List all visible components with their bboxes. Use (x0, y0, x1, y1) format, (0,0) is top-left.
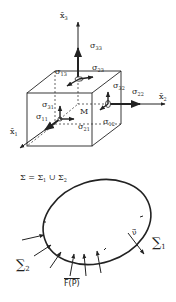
sigma11-label: σ11 (36, 113, 48, 122)
sigma31-label: σ31 (42, 101, 54, 110)
boundary-tick (104, 248, 106, 250)
x1-label: x̄1 (10, 128, 18, 137)
sigma13-arrow (67, 79, 79, 86)
x3-axis (67, 22, 93, 86)
sigma22-label: σ22 (132, 88, 144, 97)
sigma13-label: σ13 (55, 68, 67, 77)
x3-label: x̄3 (60, 12, 68, 21)
boundary-equation: Σ = Σ1 ∪ Σ2 (20, 174, 67, 183)
boundary-tick (140, 216, 143, 217)
point-m-label: M (80, 108, 88, 116)
force-label: F(P) (64, 280, 80, 288)
sigma23-label: σ23 (92, 64, 104, 73)
surface-loads (22, 235, 101, 276)
sigma33-label: σ33 (90, 42, 102, 51)
diagram-canvas (0, 0, 176, 302)
sigma1-label: ∑1 (152, 236, 166, 251)
sigma32-label: σ32 (113, 82, 125, 91)
x2-label: x̄2 (159, 93, 167, 102)
sigma21-label: σ21 (78, 123, 90, 132)
normal-label: ν⃗ (132, 229, 136, 237)
sigma2-label: ∑2 (16, 258, 30, 273)
sigma12-label: σ12 (103, 118, 115, 127)
